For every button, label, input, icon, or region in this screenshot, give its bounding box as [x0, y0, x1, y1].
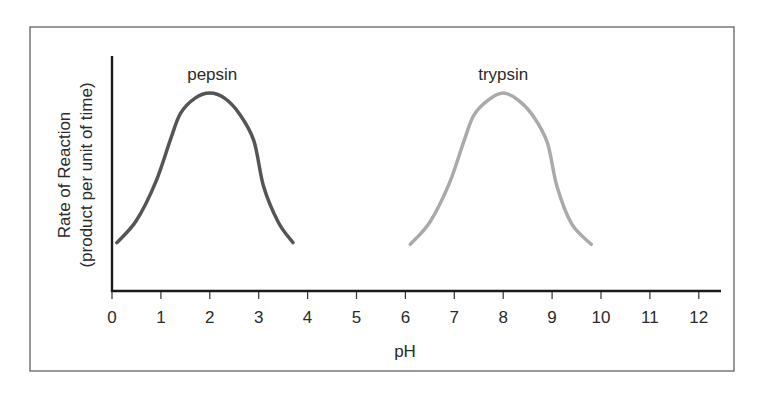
x-tick-label: 4	[303, 308, 312, 327]
x-tick-label: 12	[689, 308, 708, 327]
x-tick-label: 9	[547, 308, 556, 327]
x-tick-label: 6	[401, 308, 410, 327]
y-axis-label-line1: Rate of Reaction	[55, 112, 74, 239]
y-axis-label-line2: (product per unit of time)	[77, 82, 96, 267]
x-tick-label: 8	[498, 308, 507, 327]
x-tick-label: 7	[450, 308, 459, 327]
x-tick-label: 5	[352, 308, 361, 327]
x-tick-label: 10	[592, 308, 611, 327]
enzyme-ph-chart: pepsintrypsin 0123456789101112 pH Rate o…	[0, 0, 757, 395]
x-tick-label: 1	[156, 308, 165, 327]
figure-frame	[30, 27, 734, 371]
trypsin-label: trypsin	[478, 65, 528, 84]
x-axis-label: pH	[394, 342, 416, 361]
pepsin-label: pepsin	[187, 65, 237, 84]
x-tick-label: 2	[205, 308, 214, 327]
x-tick-label: 0	[107, 308, 116, 327]
x-tick-label: 11	[641, 308, 659, 327]
x-tick-label: 3	[254, 308, 263, 327]
